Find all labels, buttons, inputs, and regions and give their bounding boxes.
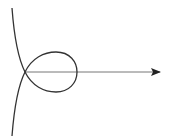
diagram-svg	[0, 0, 171, 140]
diagram-canvas	[0, 0, 171, 140]
curve-lower-branch	[12, 72, 25, 136]
curve-upper-branch	[12, 8, 25, 72]
